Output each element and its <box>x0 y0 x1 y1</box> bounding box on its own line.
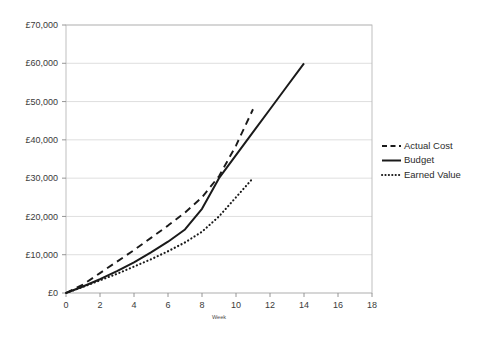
legend-label-budget: Budget <box>404 154 434 165</box>
x-tick-label: 18 <box>367 300 377 310</box>
legend-label-earned-value: Earned Value <box>404 169 461 180</box>
y-tick-label: £70,000 <box>25 20 58 30</box>
x-tick-label: 16 <box>333 300 343 310</box>
y-tick-label: £60,000 <box>25 58 58 68</box>
x-tick-label: 14 <box>299 300 309 310</box>
y-tick-label: £0 <box>48 288 58 298</box>
chart-container: £0£10,000£20,000£30,000£40,000£50,000£60… <box>0 0 477 338</box>
x-tick-label: 8 <box>199 300 204 310</box>
y-tick-label: £30,000 <box>25 173 58 183</box>
y-tick-label: £50,000 <box>25 97 58 107</box>
x-tick-label: 4 <box>131 300 136 310</box>
x-tick-label: 2 <box>97 300 102 310</box>
x-tick-label: 10 <box>231 300 241 310</box>
x-axis-title: Week <box>212 314 226 320</box>
y-tick-label: £40,000 <box>25 135 58 145</box>
x-tick-label: 12 <box>265 300 275 310</box>
y-tick-label: £20,000 <box>25 212 58 222</box>
x-tick-label: 0 <box>63 300 68 310</box>
x-tick-label: 6 <box>165 300 170 310</box>
legend-label-actual-cost: Actual Cost <box>404 140 453 151</box>
y-tick-label: £10,000 <box>25 250 58 260</box>
earned-value-line-chart: £0£10,000£20,000£30,000£40,000£50,000£60… <box>0 0 477 338</box>
